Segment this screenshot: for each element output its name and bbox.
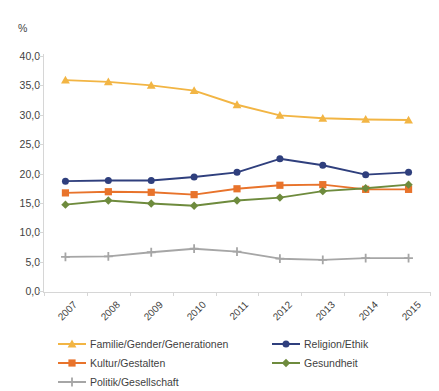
legend-item[interactable]: Kultur/Gestalten bbox=[58, 357, 165, 369]
series-4 bbox=[61, 180, 413, 210]
legend-label: Religion/Ethik bbox=[304, 339, 368, 350]
y-axis-tick-label: 5,0 bbox=[25, 256, 40, 268]
x-axis-tick-mark bbox=[44, 292, 45, 296]
data-point-marker bbox=[234, 169, 241, 176]
x-axis-line bbox=[43, 292, 431, 293]
y-axis-tick-label: 20,0 bbox=[20, 168, 40, 180]
data-point-marker bbox=[62, 178, 69, 185]
x-axis-tick-label: 2012 bbox=[270, 299, 294, 323]
legend-label: Kultur/Gestalten bbox=[90, 358, 165, 369]
x-axis-tick-label: 2013 bbox=[313, 299, 337, 323]
x-axis-tick-mark bbox=[344, 292, 345, 296]
data-point-marker bbox=[191, 191, 198, 198]
data-point-marker bbox=[105, 188, 112, 195]
x-axis-tick-mark bbox=[430, 292, 431, 296]
series-line bbox=[65, 185, 408, 206]
data-point-marker bbox=[233, 185, 240, 192]
legend-marker-icon bbox=[58, 338, 86, 350]
legend-item[interactable]: Gesundheit bbox=[272, 357, 358, 369]
data-point-marker bbox=[318, 114, 327, 122]
x-axis-tick-label: 2015 bbox=[399, 299, 423, 323]
x-axis-tick-label: 2014 bbox=[356, 299, 380, 323]
y-axis-tick-label: 35,0 bbox=[20, 79, 40, 91]
chart-legend: Familie/Gender/GenerationenReligion/Ethi… bbox=[0, 336, 439, 391]
line-chart: % 0,05,010,015,020,025,030,035,040,0 200… bbox=[0, 0, 439, 391]
x-axis-tick-label: 2007 bbox=[56, 299, 80, 323]
y-axis-tick-label: 10,0 bbox=[20, 226, 40, 238]
data-point-marker bbox=[104, 252, 113, 261]
series-plot-area bbox=[0, 0, 439, 391]
data-point-marker bbox=[361, 254, 370, 263]
data-point-marker bbox=[190, 86, 199, 94]
data-point-marker bbox=[404, 254, 413, 263]
data-point-marker bbox=[61, 76, 70, 84]
data-point-marker bbox=[319, 187, 327, 195]
legend-label: Politik/Gesellschaft bbox=[90, 377, 179, 388]
legend-marker-icon bbox=[272, 357, 300, 369]
data-point-marker bbox=[362, 171, 369, 178]
series-5 bbox=[61, 244, 413, 264]
data-point-marker bbox=[147, 81, 156, 89]
data-point-marker bbox=[233, 247, 242, 256]
series-line bbox=[65, 80, 408, 120]
x-axis-tick-mark bbox=[87, 292, 88, 296]
data-point-marker bbox=[190, 244, 199, 253]
data-point-marker bbox=[276, 182, 283, 189]
legend-item[interactable]: Familie/Gender/Generationen bbox=[58, 338, 228, 350]
y-axis-tick-mark bbox=[39, 232, 43, 233]
series-line bbox=[65, 249, 408, 260]
x-axis-tick-mark bbox=[301, 292, 302, 296]
y-axis-tick-mark bbox=[39, 262, 43, 263]
data-point-marker bbox=[319, 181, 326, 188]
data-point-marker bbox=[105, 177, 112, 184]
series-line bbox=[65, 185, 408, 195]
y-axis-tick-mark bbox=[39, 56, 43, 57]
data-point-marker bbox=[104, 77, 113, 85]
x-axis-tick-mark bbox=[173, 292, 174, 296]
y-axis-tick-label: 40,0 bbox=[20, 50, 40, 62]
data-point-marker bbox=[233, 196, 241, 204]
data-point-marker bbox=[275, 111, 284, 119]
series-2 bbox=[62, 155, 412, 184]
x-axis-tick-label: 2008 bbox=[99, 299, 123, 323]
legend-label: Gesundheit bbox=[304, 358, 358, 369]
data-point-marker bbox=[61, 253, 70, 262]
x-axis-tick-mark bbox=[130, 292, 131, 296]
x-axis-tick-mark bbox=[258, 292, 259, 296]
legend-item[interactable]: Politik/Gesellschaft bbox=[58, 376, 179, 388]
data-point-marker bbox=[404, 180, 412, 188]
y-axis-tick-label: 15,0 bbox=[20, 197, 40, 209]
data-point-marker bbox=[104, 196, 112, 204]
series-3 bbox=[62, 181, 412, 198]
data-point-marker bbox=[62, 189, 69, 196]
data-point-marker bbox=[191, 174, 198, 181]
y-axis-tick-label: 0,0 bbox=[25, 285, 40, 297]
legend-marker-icon bbox=[58, 357, 86, 369]
data-point-marker bbox=[276, 155, 283, 162]
data-point-marker bbox=[319, 162, 326, 169]
data-point-marker bbox=[148, 189, 155, 196]
data-point-marker bbox=[147, 248, 156, 257]
y-axis-tick-label: 30,0 bbox=[20, 109, 40, 121]
legend-marker-icon bbox=[272, 338, 300, 350]
legend-label: Familie/Gender/Generationen bbox=[90, 339, 228, 350]
legend-item[interactable]: Religion/Ethik bbox=[272, 338, 368, 350]
cut-off-header bbox=[40, 0, 400, 6]
series-1 bbox=[61, 76, 413, 124]
y-axis-line bbox=[43, 54, 44, 293]
data-point-marker bbox=[405, 186, 412, 193]
series-line bbox=[65, 159, 408, 181]
data-point-marker bbox=[404, 116, 413, 124]
y-axis-tick-mark bbox=[39, 144, 43, 145]
data-point-marker bbox=[61, 200, 69, 208]
y-axis-ticks: 0,05,010,015,020,025,030,035,040,0 bbox=[0, 0, 40, 391]
legend-marker-icon bbox=[58, 376, 86, 388]
data-point-marker bbox=[147, 199, 155, 207]
y-axis-tick-label: 25,0 bbox=[20, 138, 40, 150]
y-axis-tick-mark bbox=[39, 115, 43, 116]
data-point-marker bbox=[190, 202, 198, 210]
data-point-marker bbox=[233, 100, 242, 108]
data-point-marker bbox=[276, 193, 284, 201]
data-point-marker bbox=[148, 177, 155, 184]
x-axis-tick-mark bbox=[387, 292, 388, 296]
